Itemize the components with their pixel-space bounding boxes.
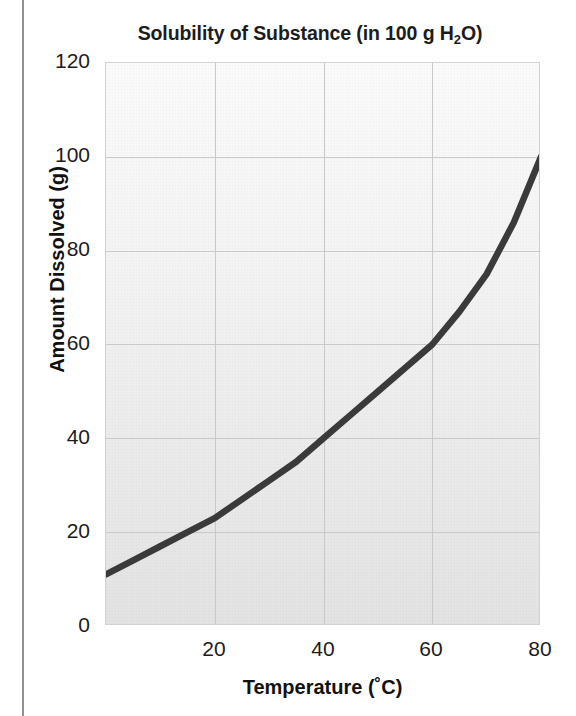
page-margin-rule bbox=[22, 0, 24, 716]
y-tick-label-40: 40 bbox=[6, 425, 90, 449]
y-tick-label-120: 120 bbox=[6, 49, 90, 73]
chart-title: Solubility of Substance (in 100 g H2O) bbox=[60, 22, 560, 45]
x-tick-label-20: 20 bbox=[174, 637, 254, 661]
y-tick-label-20: 20 bbox=[6, 519, 90, 543]
series-solubility-line bbox=[106, 157, 540, 575]
solubility-curve bbox=[106, 63, 540, 625]
y-tick-label-0: 0 bbox=[6, 613, 90, 637]
solubility-chart-figure: Solubility of Substance (in 100 g H2O) 0… bbox=[0, 0, 576, 716]
chart-title-tail: O) bbox=[461, 22, 482, 44]
y-axis-title: Amount Dissolved (g) bbox=[46, 120, 69, 420]
chart-title-main: Solubility of Substance (in 100 g H bbox=[138, 22, 454, 44]
x-tick-label-80: 80 bbox=[500, 637, 576, 661]
x-tick-label-60: 60 bbox=[391, 637, 471, 661]
x-tick-label-40: 40 bbox=[283, 637, 363, 661]
plot-area bbox=[105, 62, 540, 625]
x-axis-title: Temperature (˚C) bbox=[105, 676, 540, 699]
chart-title-subscript: 2 bbox=[454, 32, 461, 47]
